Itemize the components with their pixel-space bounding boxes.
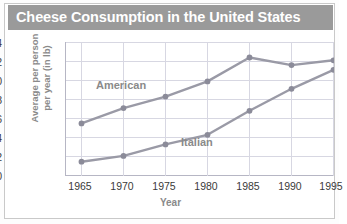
y-tick-4: 4 [0, 133, 2, 143]
y-tick-0: 0 [0, 171, 2, 181]
y-tick-10: 10 [0, 76, 2, 86]
series-label-american: American [96, 80, 146, 91]
x-tick-1990: 1990 [270, 181, 310, 191]
chart-body: Average per person per year (in lb) 14 1… [8, 31, 333, 216]
x-axis-label: Year [8, 197, 333, 208]
x-tick-1995: 1995 [311, 181, 347, 191]
y-tick-8: 8 [0, 95, 2, 105]
chart-title-banner: Cheese Consumption in the United States [8, 5, 333, 30]
y-tick-6: 6 [0, 114, 2, 124]
y-tick-12: 12 [0, 57, 2, 67]
x-tick-1980: 1980 [186, 181, 226, 191]
plot-area: American Italian [65, 42, 333, 176]
y-tick-2: 2 [0, 152, 2, 162]
y-axis-label-line2: per year (in lb) [41, 8, 55, 148]
x-tick-1985: 1985 [228, 181, 268, 191]
x-tick-1975: 1975 [144, 181, 184, 191]
x-tick-1970: 1970 [102, 181, 142, 191]
x-tick-1965: 1965 [60, 181, 100, 191]
y-tick-14: 14 [0, 38, 2, 48]
series-label-italian: Italian [181, 137, 213, 148]
